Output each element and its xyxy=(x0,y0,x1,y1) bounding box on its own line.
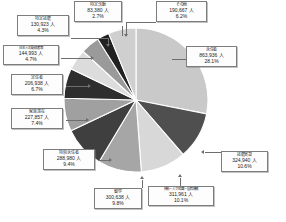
pie-label-permanent[interactable]: 永住者 863,936 人 28.1% xyxy=(186,46,237,67)
leader-line-longterm xyxy=(66,86,90,87)
pie-chart-figure: 永住者 863,936 人 28.1%技能実習 324,940 人 10.6%技… xyxy=(0,0,286,222)
leader-arrow-family xyxy=(86,118,89,122)
leader-arrow-spouse-jp xyxy=(91,56,94,60)
pie-label-engineer[interactable]: 技術・人文知識・国際業務 311,961 人 10.1% xyxy=(148,186,214,206)
leader-line-other-h xyxy=(126,22,156,23)
leader-line-trainee-h xyxy=(205,152,221,153)
pie-label-skilled-percent: 4.3% xyxy=(20,28,66,34)
pie-label-engineer-percent: 10.1% xyxy=(151,198,211,204)
pie-label-permanent-percent: 28.1% xyxy=(189,59,234,65)
pie-label-designated-percent: 2.7% xyxy=(77,14,119,20)
pie-label-trainee[interactable]: 技能実習 324,940 人 10.6% xyxy=(221,151,268,172)
leader-arrow-skilled xyxy=(106,44,110,47)
pie-label-special-perm-percent: 9.4% xyxy=(46,162,92,168)
leader-arrow-other xyxy=(124,34,128,37)
pie-label-spouse-jp-percent: 4.7% xyxy=(6,57,56,63)
leader-line-student xyxy=(142,180,143,188)
leader-line-family xyxy=(66,120,88,121)
pie-label-student[interactable]: 留学 300,638 人 9.8% xyxy=(94,188,142,209)
leader-arrow-trainee xyxy=(201,150,204,154)
pie-label-longterm-percent: 6.7% xyxy=(14,87,60,93)
pie-label-other[interactable]: その他 190,667 人 6.2% xyxy=(156,1,207,22)
pie-label-designated[interactable]: 特定活動 83,380 人 2.7% xyxy=(74,1,122,22)
pie-label-student-percent: 9.8% xyxy=(97,201,139,207)
leader-line-designated xyxy=(122,26,123,36)
pie-label-family-percent: 7.4% xyxy=(14,121,60,127)
pie-slice[interactable]: 永住者 863,936 人 28.1% xyxy=(136,28,208,114)
leader-line-skilled-h xyxy=(71,38,108,39)
leader-arrow-student xyxy=(140,176,144,179)
pie-label-special-perm[interactable]: 特別永住者 288,980 人 9.4% xyxy=(43,149,95,170)
leader-line-engineer xyxy=(180,178,181,186)
leader-line-spouse-jp xyxy=(61,58,93,59)
pie-label-longterm[interactable]: 定住者 206,938 人 6.7% xyxy=(11,74,63,95)
leader-arrow-engineer xyxy=(178,174,182,177)
pie-label-other-percent: 6.2% xyxy=(159,14,204,20)
pie-label-family[interactable]: 家族滞在 227,857 人 7.4% xyxy=(11,108,63,129)
leader-line-permanent xyxy=(172,59,186,60)
pie-label-skilled[interactable]: 特定技能 130,923 人 4.3% xyxy=(17,15,69,36)
pie-label-trainee-percent: 10.6% xyxy=(224,164,265,170)
leader-arrow-special-perm xyxy=(109,158,112,162)
leader-arrow-longterm xyxy=(88,84,91,88)
pie-label-spouse-jp[interactable]: 日本人の配偶者等 144,993 人 4.7% xyxy=(3,45,59,65)
